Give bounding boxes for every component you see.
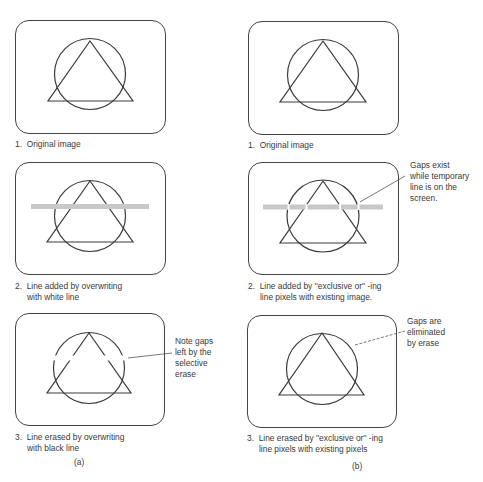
column-label-b: (b) [352,461,362,471]
annotation-gaps-eliminated: Gaps are eliminated by erase [407,316,445,349]
annotation-leader-line [355,331,405,345]
caption-b3-line2: line pixels with existing pixels [259,444,367,455]
circle-triangle-restored-figure [0,0,483,482]
caption-b3-line1: 3. Line erased by ''exclusive or'' -ing [247,433,383,444]
